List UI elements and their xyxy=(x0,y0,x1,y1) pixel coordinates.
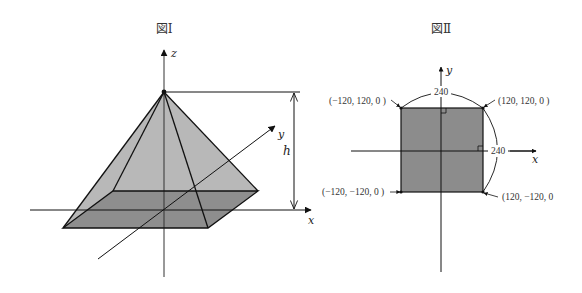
leader-bottom-right xyxy=(484,193,498,197)
y-axis-2-label: y xyxy=(445,64,453,77)
diagram-canvas: 図Ⅰ x z y h 図Ⅱ xyxy=(0,0,582,293)
figure-2: 図Ⅱ x y 240 240 (−120, 1 xyxy=(322,22,554,272)
corner-label-top-right: (120, 120, 0 ) xyxy=(498,96,549,107)
leader-top-left xyxy=(391,100,400,107)
top-dimension-label: 240 xyxy=(434,87,449,97)
figure-1-title: 図Ⅰ xyxy=(156,22,173,36)
height-label: h xyxy=(283,144,291,158)
figure-2-title: 図Ⅱ xyxy=(431,22,451,36)
figure-1: 図Ⅰ x z y h xyxy=(30,22,315,277)
leader-top-right xyxy=(484,100,495,107)
x-axis-2-label: x xyxy=(532,153,539,166)
corner-label-bottom-left: (−120, −120, 0 ) xyxy=(322,187,384,198)
corner-label-top-left: (−120, 120, 0 ) xyxy=(329,96,386,107)
z-axis-label: z xyxy=(170,47,177,60)
corner-label-bottom-right: (120, −120, 0 xyxy=(502,192,554,203)
right-dimension-label: 240 xyxy=(491,146,506,156)
x-axis-label: x xyxy=(308,214,315,227)
y-axis-label: y xyxy=(277,128,285,141)
base-square xyxy=(401,108,483,192)
